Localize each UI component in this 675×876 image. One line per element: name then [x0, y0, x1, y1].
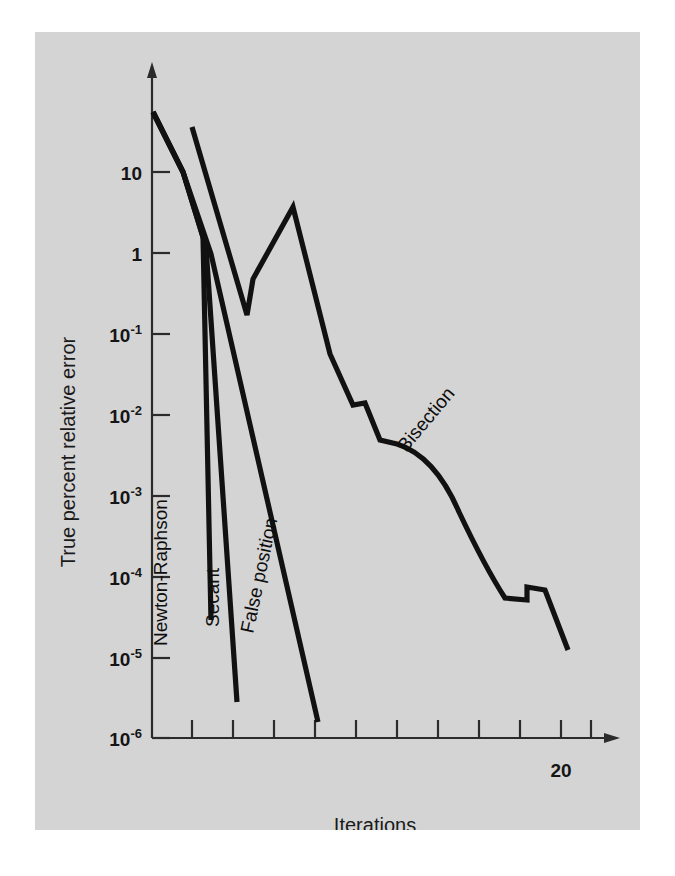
- figure-page: True percent relative error 10 1 10-: [0, 0, 675, 876]
- y-axis-ticks: [152, 172, 170, 738]
- x-axis-arrow-icon: [604, 733, 620, 743]
- y-tick-label-1e-5: 10-5: [109, 646, 142, 670]
- y-tick-label-1e-1: 10-1: [109, 322, 142, 346]
- curve-label-secant: Secant: [202, 567, 223, 627]
- x-tick-label-20: 20: [550, 760, 571, 781]
- y-tick-label-1e-2: 10-2: [109, 403, 142, 427]
- y-tick-label-10: 10: [121, 163, 142, 184]
- chart-svg: True percent relative error 10 1 10-: [35, 32, 640, 830]
- curve-label-newton-raphson: Newton-Raphson: [150, 499, 171, 646]
- y-tick-label-1e-4: 10-4: [109, 565, 142, 589]
- x-axis-title: Iterations: [334, 814, 416, 830]
- x-axis-ticks: [192, 720, 591, 738]
- y-tick-label-1: 1: [131, 244, 142, 265]
- curve-label-false-position: False position: [236, 516, 281, 635]
- y-tick-label-1e-6: 10-6: [109, 726, 142, 750]
- y-axis-arrow-icon: [147, 62, 157, 78]
- curve-label-bisection: Bisection: [393, 383, 459, 456]
- y-axis-title: True percent relative error: [57, 336, 79, 567]
- y-tick-label-1e-3: 10-3: [109, 484, 142, 508]
- chart-panel: True percent relative error 10 1 10-: [35, 32, 640, 830]
